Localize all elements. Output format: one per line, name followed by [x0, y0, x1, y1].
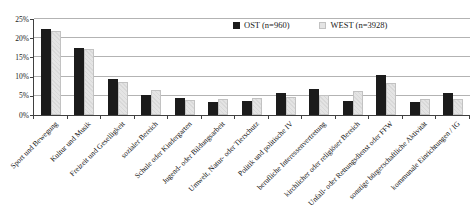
bar-west — [386, 83, 396, 115]
bar-west — [118, 82, 128, 115]
x-axis-tick — [134, 116, 135, 119]
ost-swatch-icon — [233, 22, 240, 29]
bar-west — [185, 100, 195, 115]
gridline — [34, 56, 470, 57]
x-axis-tick — [402, 116, 403, 119]
bar-chart: 0%5%10%15%20%25%Sport und BewegungKultur… — [0, 0, 475, 219]
bar-ost — [242, 101, 252, 115]
y-axis-label: 0% — [5, 111, 29, 120]
bar-west — [151, 90, 161, 115]
legend-item-ost: OST (n=960) — [233, 20, 289, 30]
plot-area — [33, 19, 470, 116]
bar-ost — [41, 29, 51, 115]
x-axis-tick — [469, 116, 470, 119]
gridline — [34, 76, 470, 77]
y-axis-label: 15% — [5, 53, 29, 62]
bar-west — [252, 98, 262, 115]
chart-legend: OST (n=960) WEST (n=3928) — [233, 20, 387, 30]
bar-west — [286, 97, 296, 115]
y-axis-label: 20% — [5, 34, 29, 43]
y-axis-label: 10% — [5, 72, 29, 81]
bar-ost — [108, 79, 118, 115]
bar-west — [420, 99, 430, 115]
bar-ost — [343, 101, 353, 115]
bar-ost — [376, 75, 386, 115]
x-axis-tick — [33, 116, 34, 119]
x-axis-tick — [368, 116, 369, 119]
y-axis-tick — [30, 77, 33, 78]
x-axis-tick — [301, 116, 302, 119]
y-axis-label: 25% — [5, 15, 29, 24]
bar-west — [353, 91, 363, 115]
bar-west — [319, 95, 329, 115]
x-axis-tick — [268, 116, 269, 119]
y-axis-tick — [30, 57, 33, 58]
bar-ost — [208, 102, 218, 115]
gridline — [34, 37, 470, 38]
bar-west — [84, 49, 94, 115]
y-axis-label: 5% — [5, 91, 29, 100]
y-axis-tick — [30, 19, 33, 20]
bar-ost — [276, 93, 286, 115]
bar-ost — [141, 95, 151, 115]
bar-west — [453, 99, 463, 115]
bar-ost — [74, 48, 84, 115]
bar-west — [51, 31, 61, 115]
west-swatch-icon — [319, 22, 326, 29]
gridline — [34, 95, 470, 96]
bar-ost — [309, 89, 319, 115]
legend-label-ost: OST (n=960) — [244, 20, 289, 30]
bar-ost — [443, 93, 453, 115]
x-axis-tick — [435, 116, 436, 119]
bar-ost — [410, 102, 420, 115]
x-axis-tick — [234, 116, 235, 119]
x-axis-tick — [167, 116, 168, 119]
bar-west — [218, 99, 228, 115]
x-axis-tick — [67, 116, 68, 119]
x-axis-tick — [100, 116, 101, 119]
x-axis-tick — [201, 116, 202, 119]
legend-item-west: WEST (n=3928) — [319, 20, 387, 30]
y-axis-tick — [30, 96, 33, 97]
x-axis-tick — [335, 116, 336, 119]
bar-ost — [175, 98, 185, 115]
legend-label-west: WEST (n=3928) — [330, 20, 387, 30]
gridline — [34, 18, 470, 19]
y-axis-tick — [30, 38, 33, 39]
